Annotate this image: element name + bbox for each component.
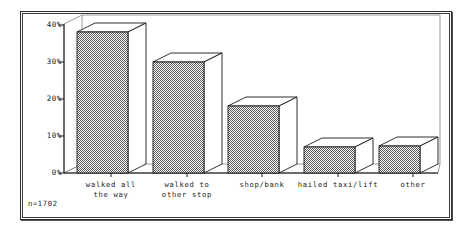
x-axis-labels: walked all the way walked to other stop …	[0, 0, 471, 235]
x-tick-label-other: other	[373, 180, 453, 190]
sample-size-note: n=1702	[28, 199, 58, 208]
chart-container: 40% 30% 20% 10% 0% walked all the way wa…	[0, 0, 471, 235]
